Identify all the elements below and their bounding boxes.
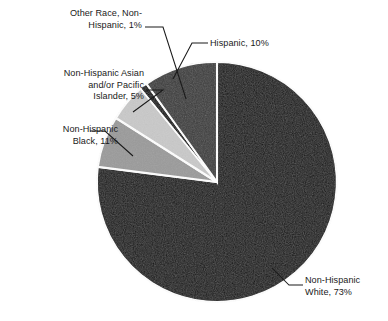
- pie-slices-group: [97, 62, 337, 302]
- pie-chart-svg: [0, 0, 388, 321]
- pie-chart-figure: Other Race, Non- Hispanic, 1% Hispanic, …: [0, 0, 388, 321]
